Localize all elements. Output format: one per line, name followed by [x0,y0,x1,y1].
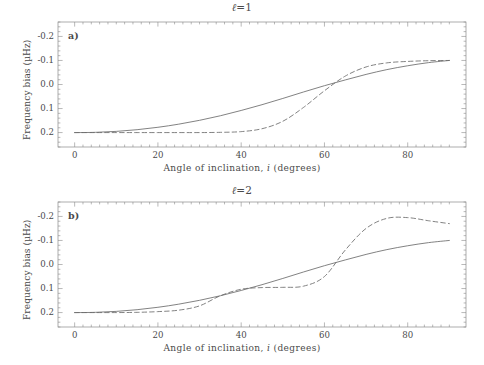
ytick-label: 0.0 [8,260,54,269]
panel-b-plot-area [58,202,466,327]
panel-a-xlabel-post: (degrees) [270,163,320,173]
xtick-label: 80 [393,151,423,160]
series-dashed [75,217,450,312]
ytick-label: -0.1 [8,236,54,245]
panel-a-title: ℓ=1 [0,1,484,13]
panel-a-xlabel-pre: Angle of inclination, [163,163,267,173]
ytick-label: 0.1 [8,284,54,293]
ytick-label: 0.2 [8,308,54,317]
xtick-label: 60 [309,151,339,160]
panel-b-ylabel: Frequency bias (µHz) [22,220,32,321]
series-solid [75,60,450,132]
xtick-label: 0 [60,331,90,340]
panel-a-title-value: =1 [236,1,252,13]
xtick-label: 0 [60,151,90,160]
panel-a: ℓ=1 Frequency bias (µHz) 0.20.10.0-0.1-0… [0,0,484,182]
panel-b: ℓ=2 Frequency bias (µHz) 0.20.10.0-0.1-0… [0,183,484,365]
xtick-label: 40 [226,151,256,160]
ytick-label: -0.1 [8,56,54,65]
figure-root: ℓ=1 Frequency bias (µHz) 0.20.10.0-0.1-0… [0,0,484,365]
xtick-label: 20 [143,331,173,340]
panel-a-plot-area [58,22,466,147]
ytick-label: -0.2 [8,32,54,41]
series-dashed [75,60,450,132]
panel-b-xlabel-post: (degrees) [270,343,320,353]
panel-b-xlabel-pre: Angle of inclination, [163,343,267,353]
xtick-label: 60 [309,331,339,340]
panel-a-ylabel: Frequency bias (µHz) [22,40,32,141]
xtick-label: 40 [226,331,256,340]
ytick-label: 0.0 [8,80,54,89]
panel-b-xlabel: Angle of inclination, i (degrees) [0,343,484,353]
xtick-label: 80 [393,331,423,340]
xtick-label: 20 [143,151,173,160]
ytick-label: -0.2 [8,212,54,221]
ytick-label: 0.1 [8,104,54,113]
panel-a-xlabel: Angle of inclination, i (degrees) [0,163,484,173]
panel-b-title: ℓ=2 [0,184,484,196]
ytick-label: 0.2 [8,128,54,137]
series-solid [75,240,450,312]
panel-b-title-value: =2 [236,184,252,196]
